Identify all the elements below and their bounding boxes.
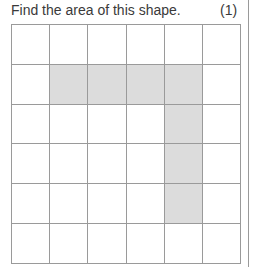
grid-cell: [203, 184, 241, 224]
grid-cell: [203, 224, 241, 264]
shaded-cell: [165, 184, 203, 224]
question-text: Find the area of this shape.: [11, 2, 181, 18]
grid-cell: [88, 105, 126, 145]
grid-cell: [203, 65, 241, 105]
grid-cell: [203, 144, 241, 184]
shaded-cell: [165, 65, 203, 105]
grid-cell: [127, 224, 165, 264]
grid-cell: [165, 25, 203, 65]
grid-cell: [50, 25, 88, 65]
grid-cell: [127, 184, 165, 224]
grid-cell: [12, 184, 50, 224]
grid-cell: [12, 224, 50, 264]
shaded-cell: [165, 144, 203, 184]
grid-cell: [88, 25, 126, 65]
margin-line: [248, 0, 249, 267]
grid-cell: [50, 105, 88, 145]
shaded-cell: [50, 65, 88, 105]
grid-cell: [12, 25, 50, 65]
grid-cell: [127, 25, 165, 65]
grid-cell: [12, 105, 50, 145]
shaded-cell: [88, 65, 126, 105]
grid-cell: [127, 144, 165, 184]
grid-cell: [203, 105, 241, 145]
grid-cell: [165, 224, 203, 264]
shaded-cell: [127, 65, 165, 105]
grid-cell: [50, 184, 88, 224]
grid-cell: [50, 224, 88, 264]
grid-cell: [88, 184, 126, 224]
grid-cell: [203, 25, 241, 65]
square-grid: [11, 24, 241, 264]
grid-cell: [88, 224, 126, 264]
grid-cell: [88, 144, 126, 184]
marks-label: (1): [220, 2, 237, 18]
grid-cell: [12, 144, 50, 184]
grid-cell: [50, 144, 88, 184]
grid-cell: [12, 65, 50, 105]
grid-cell: [127, 105, 165, 145]
shaded-cell: [165, 105, 203, 145]
